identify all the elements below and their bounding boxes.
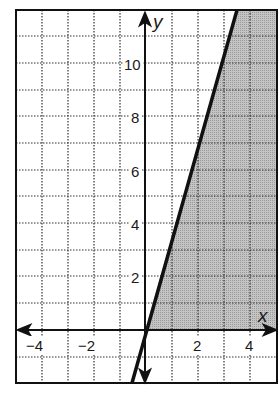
svg-text:10: 10: [124, 56, 141, 73]
svg-text:2: 2: [193, 337, 201, 354]
x-axis-label: x: [257, 305, 269, 326]
svg-text:2: 2: [131, 269, 139, 286]
svg-text:4: 4: [131, 216, 139, 233]
inequality-graph: x y −4 −2 2 4 2 4 6 8 10: [0, 0, 278, 395]
y-axis-label: y: [151, 11, 164, 32]
svg-text:8: 8: [131, 109, 139, 126]
y-tick-labels: 2 4 6 8 10: [123, 56, 143, 287]
svg-text:6: 6: [131, 163, 139, 180]
svg-text:4: 4: [245, 337, 253, 354]
svg-text:−4: −4: [26, 337, 43, 354]
svg-text:−2: −2: [78, 337, 95, 354]
